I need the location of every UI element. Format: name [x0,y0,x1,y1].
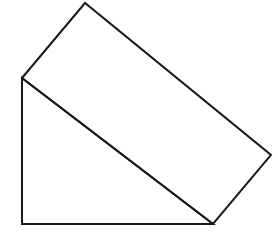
geometric-figure-canvas [0,0,278,237]
